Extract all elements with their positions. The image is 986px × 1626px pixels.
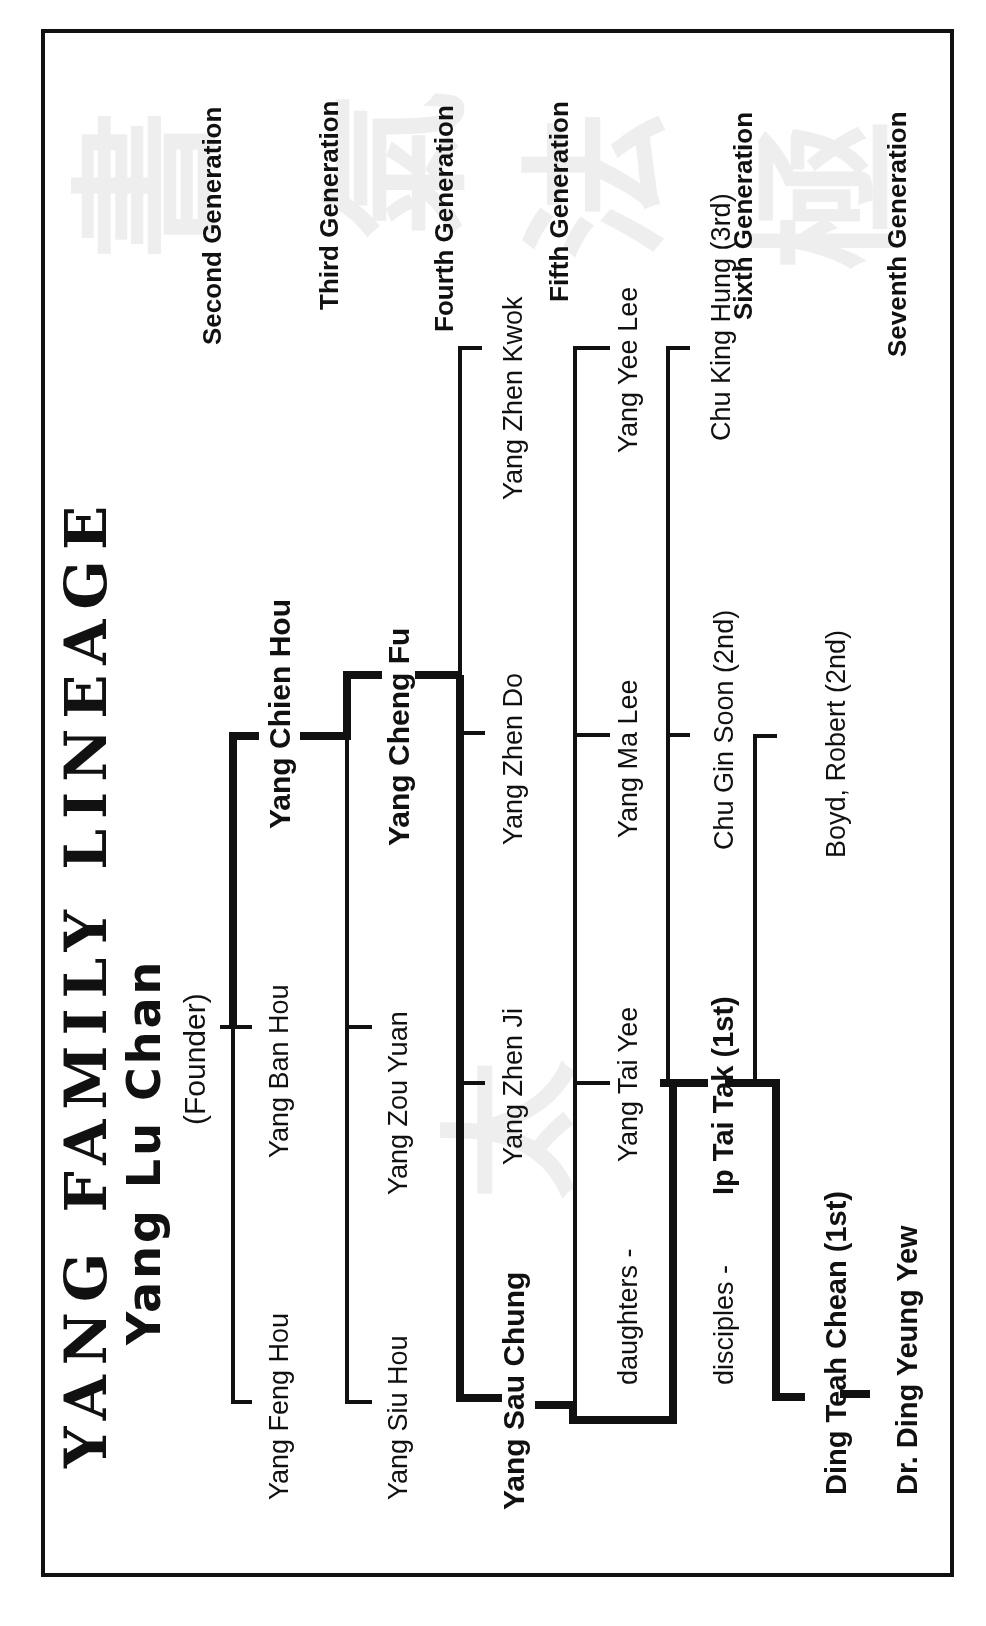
person-yang-feng-hou: Yang Feng Hou <box>264 1313 294 1500</box>
founder-name: Yang Lu Chan <box>117 959 171 1346</box>
person-yang-ban-hou: Yang Ban Hou <box>264 984 294 1158</box>
person-yang-zou-yuan: Yang Zou Yuan <box>383 1011 413 1195</box>
generation-label-fifth: Fifth Generation <box>544 101 574 302</box>
generation-label-third: Third Generation <box>314 101 344 310</box>
connector-lines <box>220 348 870 1420</box>
founder-note: (Founder) <box>178 993 211 1125</box>
daughters-prefix: daughters - <box>613 1248 643 1385</box>
person-chu-gin-soon: Chu Gin Soon (2nd) <box>709 610 739 850</box>
svg-text:法: 法 <box>509 110 685 260</box>
person-ip-tai-tak: Ip Tai Tak (1st) <box>707 996 739 1195</box>
generation-label-fourth: Fourth Generation <box>429 105 459 332</box>
person-yang-zhen-ji: Yang Zhen Ji <box>498 1008 528 1165</box>
lineage-chart: 書 氣 法 極 太 YANG FAMILY LINEAGE Yang Lu Ch… <box>0 0 986 1626</box>
chart-title: YANG FAMILY LINEAGE <box>52 496 120 1469</box>
person-yang-yee-lee: Yang Yee Lee <box>613 287 643 453</box>
person-yang-tai-yee: Yang Tai Yee <box>613 1007 643 1162</box>
lineage-diagram-svg: 書 氣 法 極 太 YANG FAMILY LINEAGE Yang Lu Ch… <box>0 0 986 1626</box>
person-yang-ma-lee: Yang Ma Lee <box>613 679 643 838</box>
person-ding-teah-chean: Ding Teah Chean (1st) <box>820 1191 852 1495</box>
person-yang-siu-hou: Yang Siu Hou <box>383 1335 413 1500</box>
person-yang-sau-chung: Yang Sau Chung <box>497 1272 530 1510</box>
person-yang-cheng-fu: Yang Cheng Fu <box>382 628 415 846</box>
person-yang-zhen-do: Yang Zhen Do <box>498 673 528 845</box>
person-chu-king-hung: Chu King Hung (3rd) <box>706 193 736 441</box>
disciples-prefix: disciples - <box>709 1265 739 1385</box>
generation-label-seventh: Seventh Generation <box>882 111 912 357</box>
person-yang-zhen-kwok: Yang Zhen Kwok <box>498 296 528 500</box>
generation-label-second: Second Generation <box>197 107 227 345</box>
person-boyd-robert: Boyd, Robert (2nd) <box>821 630 851 858</box>
person-dr-ding-yeung-yew: Dr. Ding Yeung Yew <box>891 1225 923 1495</box>
person-yang-chien-hou: Yang Chien Hou <box>263 599 296 829</box>
